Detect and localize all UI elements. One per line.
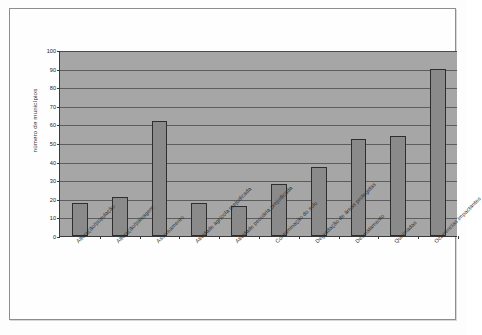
y-tick-label: 60 <box>50 122 56 128</box>
y-tick-label: 100 <box>47 48 56 54</box>
y-tick-label: 20 <box>50 197 56 203</box>
y-tick-label: 70 <box>50 104 56 110</box>
y-tick-label: 0 <box>53 234 56 240</box>
x-axis-labels: Alteração/populaçãoAlteração/paisagemAss… <box>59 240 459 320</box>
bar <box>390 136 406 236</box>
y-axis-title: número de municípios <box>31 66 38 176</box>
y-tick-label: 90 <box>50 67 56 73</box>
x-tick-mark <box>179 236 180 239</box>
x-tick-mark <box>259 236 260 239</box>
y-tick-label: 50 <box>50 141 56 147</box>
y-tick-label: 30 <box>50 178 56 184</box>
x-tick-mark <box>299 236 300 239</box>
y-tick-label: 10 <box>50 215 56 221</box>
bar <box>351 139 367 236</box>
y-tick-label: 40 <box>50 160 56 166</box>
bar <box>152 121 168 236</box>
x-tick-mark <box>339 236 340 239</box>
y-tick-label: 80 <box>50 85 56 91</box>
x-tick-mark <box>418 236 419 239</box>
figure-border: número de municípios 0102030405060708090… <box>9 8 456 320</box>
x-tick-mark <box>378 236 379 239</box>
x-tick-mark <box>219 236 220 239</box>
x-tick-mark <box>140 236 141 239</box>
x-tick-mark <box>100 236 101 239</box>
y-tick-mark <box>57 237 60 238</box>
x-tick-mark <box>458 236 459 239</box>
bar-series <box>60 51 457 236</box>
bar <box>430 69 446 236</box>
plot-area: 0102030405060708090100 <box>59 51 457 237</box>
